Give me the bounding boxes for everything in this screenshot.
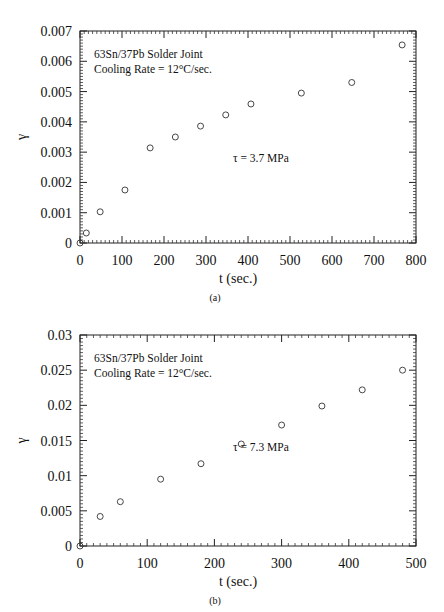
y-tick-label: 0.005 bbox=[41, 504, 73, 519]
y-tick-label: 0.003 bbox=[41, 145, 73, 160]
data-point bbox=[400, 367, 406, 373]
annotation-line: Cooling Rate = 12°C/sec. bbox=[94, 367, 212, 380]
data-point bbox=[83, 230, 89, 236]
y-tick-label: 0.005 bbox=[41, 85, 73, 100]
x-tick-label: 200 bbox=[204, 556, 225, 571]
y-tick-label: 0 bbox=[65, 236, 72, 251]
x-tick-label: 300 bbox=[271, 556, 292, 571]
x-tick-label: 400 bbox=[338, 556, 359, 571]
x-tick-label: 200 bbox=[154, 253, 175, 268]
y-tick-label: 0.015 bbox=[41, 434, 73, 449]
data-point bbox=[319, 403, 325, 409]
data-point bbox=[198, 123, 204, 129]
x-tick-label: 500 bbox=[406, 556, 427, 571]
data-point bbox=[158, 476, 164, 482]
y-tick-label: 0.002 bbox=[41, 175, 73, 190]
data-point bbox=[223, 112, 229, 118]
x-tick-label: 700 bbox=[364, 253, 385, 268]
data-point bbox=[359, 387, 365, 393]
y-tick-label: 0.007 bbox=[41, 24, 73, 39]
y-tick-label: 0.03 bbox=[48, 328, 73, 343]
data-point bbox=[248, 101, 254, 107]
chart-b-plot: 010020030040050000.0050.010.0150.020.025… bbox=[0, 305, 444, 612]
data-point bbox=[198, 461, 204, 467]
x-tick-label: 100 bbox=[137, 556, 158, 571]
x-axis-label: t (sec.) bbox=[219, 574, 257, 590]
stress-label: τ = 3.7 MPa bbox=[233, 152, 289, 164]
annotation-line: 63Sn/37Pb Solder Joint bbox=[94, 48, 203, 60]
chart-b-strain-vs-time: 010020030040050000.0050.010.0150.020.025… bbox=[0, 305, 444, 612]
x-axis-label: t (sec.) bbox=[219, 271, 257, 287]
y-axis-label: γ bbox=[14, 437, 29, 444]
panel-label: (b) bbox=[209, 595, 221, 607]
data-point bbox=[172, 134, 178, 140]
annotation-line: Cooling Rate = 12°C/sec. bbox=[94, 63, 212, 76]
x-tick-label: 800 bbox=[406, 253, 427, 268]
annotation-line: 63Sn/37Pb Solder Joint bbox=[94, 352, 203, 364]
x-tick-label: 0 bbox=[77, 253, 84, 268]
y-tick-label: 0.02 bbox=[48, 398, 73, 413]
data-point bbox=[349, 79, 355, 85]
y-tick-label: 0.004 bbox=[41, 115, 73, 130]
y-axis-label: γ bbox=[14, 134, 29, 141]
y-tick-label: 0.006 bbox=[41, 54, 73, 69]
data-point bbox=[147, 145, 153, 151]
x-tick-label: 400 bbox=[238, 253, 259, 268]
x-tick-label: 500 bbox=[280, 253, 301, 268]
x-tick-label: 600 bbox=[322, 253, 343, 268]
panel-label: (a) bbox=[209, 292, 220, 304]
x-tick-label: 0 bbox=[77, 556, 84, 571]
data-point bbox=[399, 42, 405, 48]
y-tick-label: 0.025 bbox=[41, 363, 73, 378]
data-point bbox=[97, 513, 103, 519]
chart-a-strain-vs-time: 010020030040050060070080000.0010.0020.00… bbox=[0, 0, 444, 305]
data-point bbox=[97, 209, 103, 215]
y-tick-label: 0 bbox=[65, 539, 72, 554]
data-point bbox=[117, 499, 123, 505]
chart-a-plot: 010020030040050060070080000.0010.0020.00… bbox=[0, 0, 444, 305]
y-tick-label: 0.001 bbox=[41, 206, 73, 221]
x-tick-label: 100 bbox=[112, 253, 133, 268]
data-point bbox=[298, 90, 304, 96]
data-point bbox=[122, 187, 128, 193]
y-tick-label: 0.01 bbox=[48, 469, 73, 484]
x-tick-label: 300 bbox=[196, 253, 217, 268]
data-point bbox=[279, 422, 285, 428]
